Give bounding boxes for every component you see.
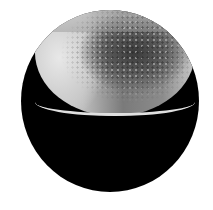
specimen-rim	[35, 102, 195, 116]
circular-field	[21, 10, 199, 192]
specimen-shell	[35, 10, 195, 116]
specimen-texture	[35, 10, 195, 116]
